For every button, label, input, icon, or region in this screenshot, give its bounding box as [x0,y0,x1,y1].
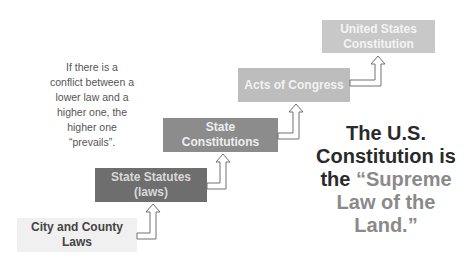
bent-up-arrow-icon [137,204,160,239]
bent-up-arrow-icon [278,104,303,139]
note-line: lower law and a [40,90,144,105]
note-line: If there is a [40,60,144,75]
note-line: conflict between a [40,75,144,90]
conflict-note: If there is a conflict between a lower l… [40,60,144,150]
bent-up-arrow-icon [207,154,230,189]
bent-up-arrow-icon [350,56,385,86]
supreme-law-callout: The U.S. Constitution is the “Supreme La… [306,122,466,237]
note-line: higher one [40,120,144,135]
note-line: higher one, the [40,105,144,120]
note-line: “prevails”. [40,135,144,150]
